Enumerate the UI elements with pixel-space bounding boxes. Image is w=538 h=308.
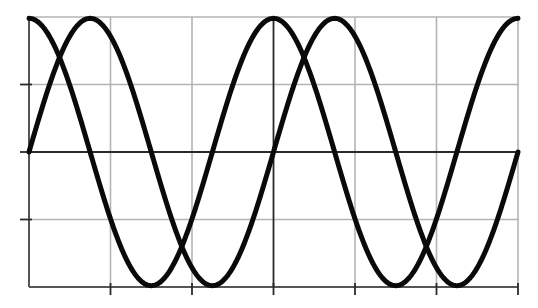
line-chart xyxy=(0,0,538,308)
